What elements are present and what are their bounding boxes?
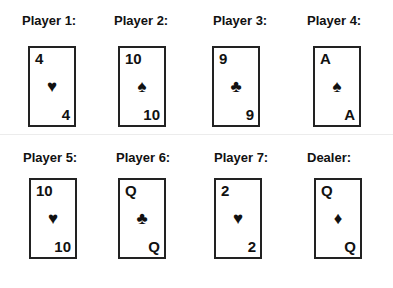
card-rank-top: Q xyxy=(125,183,137,198)
spade-icon: ♠ xyxy=(315,78,359,95)
card-rank-bottom: 2 xyxy=(248,239,256,254)
playing-card: A ♠ A xyxy=(313,46,361,127)
club-icon: ♣ xyxy=(214,78,258,95)
card-rank-top: 4 xyxy=(35,51,43,66)
heart-icon: ♥ xyxy=(31,210,75,227)
heart-icon: ♥ xyxy=(216,210,260,227)
page-fold-line xyxy=(0,134,393,135)
diamond-icon: ♦ xyxy=(316,210,360,227)
card-rank-top: 10 xyxy=(36,183,53,198)
dealer-label: Dealer: xyxy=(307,150,351,165)
card-rank-top: 2 xyxy=(221,183,229,198)
card-rank-top: 9 xyxy=(219,51,227,66)
card-rank-bottom: Q xyxy=(148,239,160,254)
card-rank-bottom: 9 xyxy=(246,107,254,122)
playing-card: Q ♦ Q xyxy=(314,178,362,259)
playing-card: 9 ♣ 9 xyxy=(212,46,260,127)
player-label: Player 1: xyxy=(22,13,76,28)
card-rank-bottom: A xyxy=(344,107,355,122)
playing-card: 10 ♠ 10 xyxy=(118,46,166,127)
card-rank-bottom: Q xyxy=(344,239,356,254)
heart-icon: ♥ xyxy=(30,78,74,95)
playing-card: 4 ♥ 4 xyxy=(28,46,76,127)
card-rank-top: 10 xyxy=(125,51,142,66)
player-label: Player 5: xyxy=(23,150,77,165)
playing-card: 2 ♥ 2 xyxy=(214,178,262,259)
playing-card: 10 ♥ 10 xyxy=(29,178,77,259)
card-rank-bottom: 4 xyxy=(62,107,70,122)
card-rank-bottom: 10 xyxy=(54,239,71,254)
card-rank-top: Q xyxy=(321,183,333,198)
player-label: Player 4: xyxy=(307,13,361,28)
player-label: Player 6: xyxy=(116,150,170,165)
card-rank-bottom: 10 xyxy=(143,107,160,122)
card-rank-top: A xyxy=(320,51,331,66)
player-label: Player 2: xyxy=(114,13,168,28)
player-label: Player 7: xyxy=(214,150,268,165)
player-label: Player 3: xyxy=(213,13,267,28)
playing-card: Q ♣ Q xyxy=(118,178,166,259)
club-icon: ♣ xyxy=(120,210,164,227)
spade-icon: ♠ xyxy=(120,78,164,95)
